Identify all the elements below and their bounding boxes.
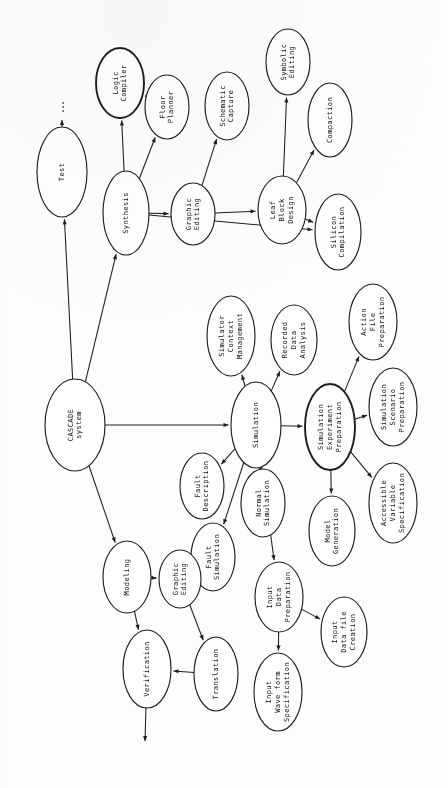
node-label: Verification bbox=[142, 641, 151, 696]
edge-simulation-to-fault_sim bbox=[223, 463, 244, 525]
node-action_file[interactable]: ActionFilePreparation bbox=[349, 284, 397, 360]
edge-modeling-to-graphic_editing_low bbox=[151, 576, 157, 580]
node-floor_planner[interactable]: FloorPlanner bbox=[145, 75, 189, 139]
node-sim_scenario[interactable]: SimulationScenarioPreparation bbox=[369, 368, 417, 446]
nodes-layer: CASCADEsystemTestSynthesisLogicCompilerF… bbox=[37, 29, 417, 731]
edge-input_data_prep-to-input_data_file bbox=[302, 609, 321, 619]
node-symbolic_editing[interactable]: SymbolicEditing bbox=[266, 29, 310, 95]
node-sim_ctx[interactable]: SimulatorContextManagement bbox=[207, 296, 255, 376]
node-simulation[interactable]: Simulation bbox=[231, 382, 281, 468]
edge-leaf_block-to-silicon_comp bbox=[305, 218, 313, 222]
node-recorded_data[interactable]: RecordedDataAnalysis bbox=[271, 305, 317, 375]
edge-graphic_editing_top-to-leaf_block bbox=[215, 209, 256, 213]
node-label: Modeling bbox=[122, 559, 131, 596]
node-label: SimulationScenarioPreparation bbox=[379, 382, 405, 433]
edge-simulation-to-sim_ctx bbox=[241, 375, 245, 387]
edge-cascade-to-simulation bbox=[105, 423, 229, 427]
node-logic_compiler[interactable]: LogicCompiler bbox=[96, 48, 144, 118]
edge-modeling-to-verification bbox=[134, 611, 139, 629]
node-label: SimulationExperimentPreparation bbox=[316, 402, 342, 453]
edge-leaf_block-to-symbolic_editing bbox=[283, 97, 288, 176]
node-cascade[interactable]: CASCADEsystem bbox=[45, 379, 105, 471]
edge-synthesis-to-logic_compiler bbox=[120, 120, 124, 171]
node-input_wave[interactable]: InputWave formSpecification bbox=[254, 653, 302, 731]
node-label: GraphicEditing bbox=[171, 563, 189, 595]
node-label: Simulation bbox=[251, 402, 260, 448]
node-schematic_capture[interactable]: SchematicCapture bbox=[205, 72, 249, 140]
node-label: FloorPlanner bbox=[158, 91, 176, 123]
node-verification[interactable]: Verification bbox=[123, 630, 171, 708]
node-label: SimulatorContextManagement bbox=[217, 313, 243, 359]
node-input_data_file[interactable]: InputData fileCreation bbox=[321, 597, 367, 667]
edge-cascade-to-test bbox=[63, 219, 73, 379]
node-label: Translation bbox=[211, 649, 220, 700]
node-model_gen[interactable]: ModelGeneration bbox=[309, 496, 355, 566]
node-label: CASCADEsystem bbox=[66, 409, 84, 441]
diagram-canvas: CASCADEsystemTestSynthesisLogicCompilerF… bbox=[0, 0, 448, 788]
edge-leaf_block-to-compaction bbox=[296, 150, 314, 183]
node-silicon_comp[interactable]: SiliconCompilation bbox=[315, 194, 361, 270]
ellipsis-marker-icon bbox=[62, 102, 64, 112]
node-label: Synthesis bbox=[121, 192, 130, 234]
node-label: Compaction bbox=[325, 97, 334, 143]
node-sim_exp_prep[interactable]: SimulationExperimentPreparation bbox=[305, 384, 355, 470]
node-normal_sim[interactable]: NormalSimulation bbox=[241, 469, 285, 537]
node-label: GraphicEditing bbox=[184, 198, 202, 230]
edge-sim_exp_prep-to-action_file bbox=[344, 356, 359, 392]
edge-cascade-to-synthesis bbox=[85, 254, 117, 382]
node-compaction[interactable]: Compaction bbox=[308, 83, 352, 157]
edge-sim_exp_prep-to-model_gen bbox=[329, 470, 333, 494]
edge-input_data_prep-to-input_wave bbox=[276, 632, 280, 651]
node-label: SchematicCapture bbox=[218, 85, 236, 127]
node-label: Test bbox=[57, 163, 66, 181]
edge-simulation-to-recorded_data bbox=[271, 371, 280, 391]
edge-simulation-to-sim_exp_prep bbox=[281, 424, 303, 428]
node-accessible_var[interactable]: AccessibleVariableSpecification bbox=[369, 463, 417, 543]
edge-sim_exp_prep-to-sim_scenario bbox=[355, 415, 367, 419]
open-edge-verification-continues bbox=[143, 708, 147, 741]
node-fault_desc[interactable]: FaultDescription bbox=[180, 453, 224, 519]
graph-svg: CASCADEsystemTestSynthesisLogicCompilerF… bbox=[0, 0, 448, 788]
edge-simulation-to-fault_desc bbox=[221, 449, 235, 465]
node-leaf_block[interactable]: LeafBlockDesign bbox=[258, 176, 306, 244]
node-modeling[interactable]: Modeling bbox=[103, 541, 151, 613]
node-graphic_editing_top[interactable]: GraphicEditing bbox=[171, 183, 215, 245]
edge-graphic_editing_low-to-translation bbox=[190, 605, 204, 641]
edge-synthesis-to-floor_planner bbox=[139, 137, 155, 178]
edge-cascade-to-modeling bbox=[89, 466, 116, 543]
node-input_data_prep[interactable]: InputDataPreparation bbox=[255, 562, 303, 632]
edge-sim_exp_prep-to-accessible_var bbox=[350, 452, 371, 478]
node-graphic_editing_low[interactable]: GraphicEditing bbox=[159, 550, 201, 608]
node-synthesis[interactable]: Synthesis bbox=[103, 171, 149, 255]
open-edge-test-continues bbox=[60, 102, 64, 127]
node-test[interactable]: Test bbox=[37, 127, 87, 217]
edge-graphic_editing_top-to-schematic_capture bbox=[202, 139, 217, 186]
node-label: SymbolicEditing bbox=[279, 44, 297, 81]
node-translation[interactable]: Translation bbox=[194, 637, 238, 711]
edge-translation-to-verification bbox=[173, 669, 194, 673]
